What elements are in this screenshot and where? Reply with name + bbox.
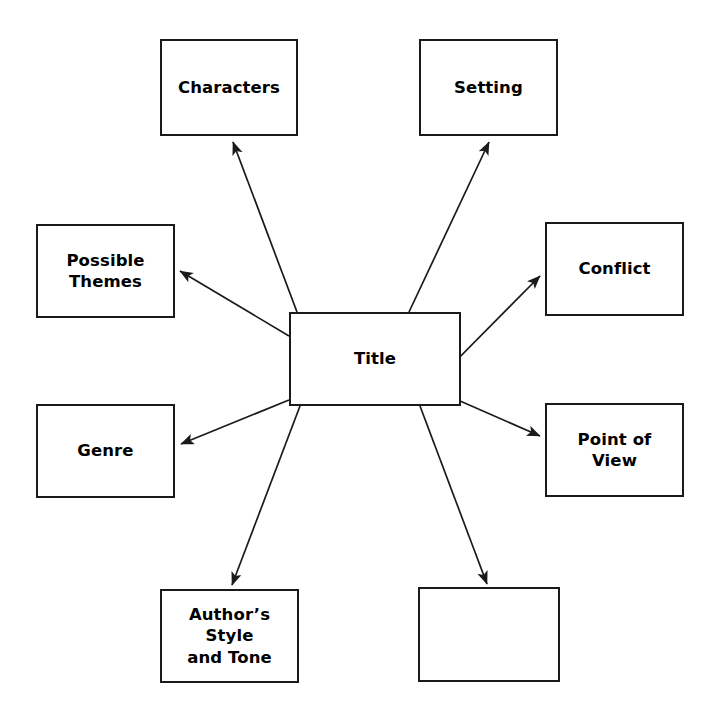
node-point-of-view[interactable]: Point of View — [545, 403, 684, 497]
node-label-conflict: Conflict — [572, 258, 656, 279]
node-genre[interactable]: Genre — [36, 404, 175, 498]
node-label-possible-themes: Possible Themes — [60, 250, 150, 292]
connector-setting — [409, 142, 489, 312]
node-conflict[interactable]: Conflict — [545, 222, 684, 316]
node-label-title: Title — [348, 348, 402, 369]
node-label-authors-style-and-tone: Author’s Style and Tone — [162, 604, 297, 667]
scan-artifact-strip — [0, 0, 719, 12]
node-authors-style-and-tone[interactable]: Author’s Style and Tone — [160, 589, 299, 683]
node-possible-themes[interactable]: Possible Themes — [36, 224, 175, 318]
node-characters[interactable]: Characters — [160, 39, 298, 136]
connector-genre — [181, 400, 289, 444]
node-label-setting: Setting — [448, 77, 529, 98]
node-blank[interactable] — [418, 587, 560, 682]
node-label-point-of-view: Point of View — [547, 429, 682, 471]
node-label-characters: Characters — [172, 77, 286, 98]
connector-characters — [233, 142, 297, 312]
connector-possible-themes — [180, 271, 289, 336]
story-map-diagram: Characters Setting Possible Themes Confl… — [0, 0, 719, 728]
connector-blank-node — [420, 406, 487, 584]
node-label-genre: Genre — [71, 440, 139, 461]
node-title[interactable]: Title — [289, 312, 461, 406]
connector-authors-style — [232, 406, 300, 585]
node-setting[interactable]: Setting — [419, 39, 558, 136]
